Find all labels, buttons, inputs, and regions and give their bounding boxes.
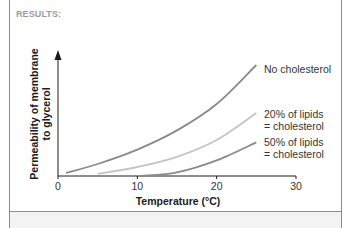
x-tick-label: 0: [55, 180, 61, 192]
legend-label: = cholesterol: [264, 120, 324, 132]
x-ticks: 0102030: [55, 176, 302, 192]
legend-labels: No cholesterol20% of lipids= cholesterol…: [264, 63, 331, 160]
y-axis-label-line-1: Permeability of membrane: [28, 48, 40, 179]
x-tick-label: 10: [131, 180, 143, 192]
y-axis-arrow-icon: [55, 50, 62, 60]
legend-label: = cholesterol: [264, 148, 324, 160]
y-axis-label-line-2: to glycerol: [40, 87, 52, 140]
legend-label: No cholesterol: [264, 63, 331, 75]
legend-label: 20% of lipids: [264, 108, 324, 120]
curve-0: [66, 65, 256, 173]
legend-label: 50% of lipids: [264, 136, 324, 148]
curve-2: [141, 142, 256, 176]
chart: 0102030 No cholesterol20% of lipids= cho…: [0, 0, 345, 228]
x-axis-label: Temperature (°C): [136, 195, 221, 207]
curves: [66, 65, 256, 176]
x-tick-label: 30: [290, 180, 302, 192]
curve-1: [98, 113, 257, 174]
x-tick-label: 20: [211, 180, 223, 192]
